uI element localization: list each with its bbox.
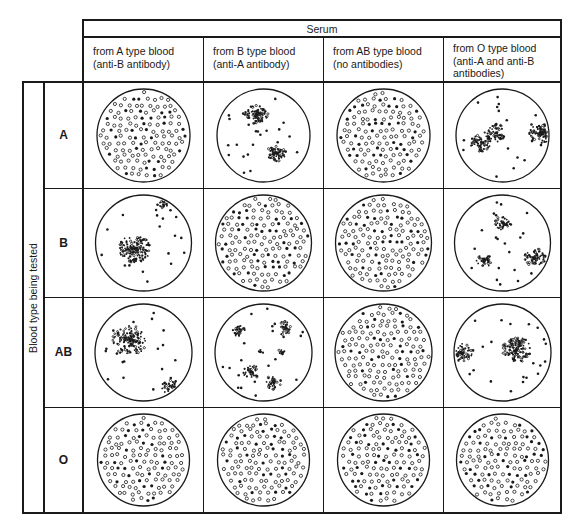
sample-cell: [324, 408, 443, 512]
agglutinated-sample-icon: [204, 83, 323, 188]
column-header-line: from B type blood: [213, 45, 323, 58]
uniform-sample-icon: [324, 83, 443, 188]
row-label-b: B: [44, 236, 83, 250]
uniform-sample-icon: [324, 298, 443, 407]
sample-cell: [444, 408, 561, 512]
column-header-b: from B type blood (anti-A antibody): [204, 37, 323, 82]
uniform-sample-icon: [84, 408, 203, 512]
agglutinated-sample-icon: [444, 189, 561, 297]
column-header-line: from O type blood: [453, 42, 561, 55]
uniform-sample-icon: [204, 408, 323, 512]
sample-cell: [84, 408, 203, 512]
column-header-line: (anti-B antibody): [93, 58, 203, 71]
sample-cell: [444, 298, 561, 407]
uniform-sample-icon: [204, 189, 323, 297]
row-label-ab: AB: [44, 345, 83, 359]
sample-cell: [324, 189, 443, 297]
column-header-ab: from AB type blood (no antibodies): [324, 37, 443, 82]
uniform-sample-icon: [444, 408, 561, 512]
sample-cell: [204, 83, 323, 188]
row-label-o: O: [44, 453, 83, 467]
sample-cell: [444, 83, 561, 188]
sample-cell: [84, 83, 203, 188]
sample-cell: [84, 189, 203, 297]
sample-cell: [204, 408, 323, 512]
side-axis-label-text: Blood type being tested: [27, 243, 39, 353]
column-header-o: from O type blood (anti-A and anti-B ant…: [444, 37, 561, 82]
sample-cell: [204, 189, 323, 297]
column-header-line: antibodies): [453, 67, 561, 80]
column-header-line: from AB type blood: [333, 45, 443, 58]
agglutinated-sample-icon: [444, 83, 561, 188]
agglutinated-sample-icon: [84, 298, 203, 407]
serum-title: Serum: [83, 20, 561, 37]
column-header-line: from A type blood: [93, 45, 203, 58]
uniform-sample-icon: [324, 189, 443, 297]
sample-cell: [84, 298, 203, 407]
sample-cell: [324, 83, 443, 188]
uniform-sample-icon: [84, 83, 203, 188]
column-header-line: (anti-A and anti-B: [453, 55, 561, 68]
row-label-a: A: [44, 128, 83, 142]
column-header-line: (anti-A antibody): [213, 58, 323, 71]
side-axis-label: Blood type being tested: [22, 82, 44, 513]
uniform-sample-icon: [324, 408, 443, 512]
sample-cell: [444, 189, 561, 297]
agglutinated-sample-icon: [444, 298, 561, 407]
agglutinated-sample-icon: [84, 189, 203, 297]
sample-cell: [324, 298, 443, 407]
agglutinated-sample-icon: [204, 298, 323, 407]
border-bottom: [22, 512, 562, 514]
column-header-a: from A type blood (anti-B antibody): [84, 37, 203, 82]
sample-cell: [204, 298, 323, 407]
column-header-line: (no antibodies): [333, 58, 443, 71]
